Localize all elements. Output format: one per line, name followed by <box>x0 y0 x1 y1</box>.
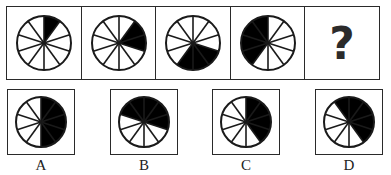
option-d-label[interactable]: D <box>315 155 383 175</box>
question-mark-icon: ? <box>305 17 379 71</box>
option-d[interactable] <box>315 89 383 155</box>
wheel-icon <box>163 13 223 73</box>
option-c-label[interactable]: C <box>212 155 280 175</box>
wheel-icon <box>116 94 172 150</box>
wheel-icon <box>13 94 69 150</box>
option-a-label[interactable]: A <box>7 155 75 175</box>
sequence-figure-4 <box>230 6 306 80</box>
option-a[interactable] <box>7 89 75 155</box>
wheel-icon <box>321 94 377 150</box>
sequence-figure-3 <box>155 6 231 80</box>
option-b[interactable] <box>110 89 178 155</box>
sequence-row: ? <box>6 6 386 80</box>
option-b-label[interactable]: B <box>110 155 178 175</box>
wheel-icon <box>89 13 149 73</box>
sequence-figure-2 <box>81 6 157 80</box>
sequence-figure-unknown: ? <box>304 6 380 80</box>
wheel-icon <box>14 13 74 73</box>
option-c[interactable] <box>212 89 280 155</box>
sequence-figure-1 <box>6 6 82 80</box>
wheel-icon <box>238 13 298 73</box>
wheel-icon <box>218 94 274 150</box>
